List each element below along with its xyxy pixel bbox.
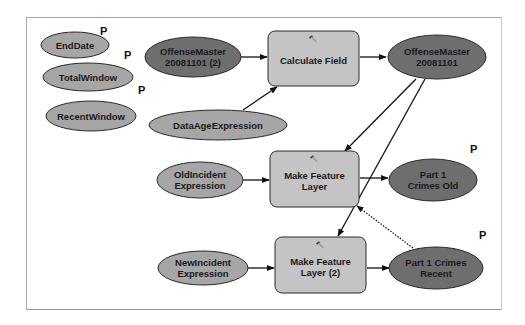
offense-master-2-label-line-1: OffenseMaster — [160, 46, 226, 57]
connector-data-age-expression-to-calculate-field[interactable] — [243, 87, 277, 110]
calculate-field-label-line-1: Calculate Field — [280, 55, 347, 66]
part1-crimes-recent-label-line-2: Recent — [420, 268, 453, 279]
dataset-offense-master[interactable]: OffenseMaster20081101 — [388, 35, 486, 79]
parameter-marker: P — [100, 25, 107, 37]
parameter-marker: P — [479, 229, 486, 241]
make-feature-layer-2-label-line-2: Layer (2) — [301, 267, 341, 278]
total-window-label-line-1: TotalWindow — [59, 72, 118, 83]
data-age-expression-label-line-1: DataAgeExpression — [173, 120, 263, 131]
make-feature-layer-label-line-2: Layer — [302, 181, 328, 192]
offense-master-2-label-line-2: 20081101 (2) — [165, 57, 221, 68]
new-incident-expression-label-line-2: Expression — [177, 268, 228, 279]
offense-master-label-line-2: 20081101 — [416, 57, 458, 68]
variable-data-age-expression[interactable]: DataAgeExpression — [149, 110, 287, 140]
part1-crimes-old-label-line-2: Crimes Old — [408, 180, 459, 191]
old-incident-expression-label-line-1: OldIncident — [174, 169, 227, 180]
offense-master-label-line-1: OffenseMaster — [404, 46, 470, 57]
old-incident-expression-label-line-2: Expression — [174, 180, 225, 191]
part1-crimes-old-label-line-1: Part 1 — [420, 169, 447, 180]
tool-make-feature-layer[interactable]: Make FeatureLayer — [270, 151, 359, 207]
make-feature-layer-label-line-1: Make Feature — [284, 170, 345, 181]
end-date-label-line-1: EndDate — [56, 40, 95, 51]
parameter-marker: P — [124, 49, 131, 61]
dataset-part1-crimes-old[interactable]: Part 1Crimes OldP — [389, 143, 477, 201]
part1-crimes-recent-label-line-1: Part 1 Crimes — [405, 257, 466, 268]
variable-old-incident-expression[interactable]: OldIncidentExpression — [157, 162, 243, 198]
tool-calculate-field[interactable]: Calculate Field — [268, 31, 359, 86]
tool-make-feature-layer-2[interactable]: Make FeatureLayer (2) — [275, 237, 366, 293]
parameter-marker: P — [470, 143, 477, 155]
new-incident-expression-label-line-1: NewIncident — [175, 257, 232, 268]
recent-window-label-line-1: RecentWindow — [57, 111, 126, 122]
dataset-part1-crimes-recent[interactable]: Part 1 CrimesRecentP — [389, 229, 486, 289]
model-diagram: EndDatePTotalWindowPRecentWindowPOffense… — [0, 0, 525, 325]
variable-end-date[interactable]: EndDateP — [41, 25, 109, 58]
make-feature-layer-2-label-line-1: Make Feature — [290, 256, 351, 267]
dataset-offense-master-2[interactable]: OffenseMaster20081101 (2) — [145, 37, 241, 77]
parameter-marker: P — [138, 84, 145, 96]
variable-new-incident-expression[interactable]: NewIncidentExpression — [158, 251, 248, 285]
